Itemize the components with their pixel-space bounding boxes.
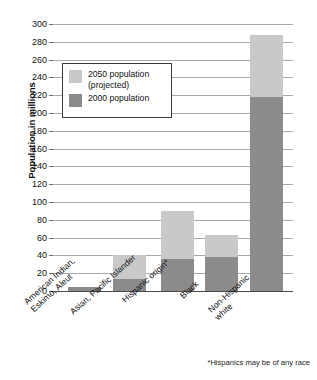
- legend-label-2050: 2050 population (projected): [88, 69, 149, 90]
- legend-item-2000: 2000 population: [69, 93, 166, 107]
- y-tick-label: 140: [32, 162, 47, 171]
- chart-legend: 2050 population (projected) 2000 populat…: [62, 63, 172, 118]
- chart-footnote: *Hispanics may be of any race: [207, 358, 310, 367]
- legend-item-2050: 2050 population (projected): [69, 69, 166, 90]
- y-tick-label: 220: [32, 91, 47, 100]
- y-tick-label: 240: [32, 73, 47, 82]
- y-tick-label: 260: [32, 55, 47, 64]
- y-tick-label: 100: [32, 198, 47, 207]
- bar-group: [161, 211, 194, 291]
- x-axis-labels: American Indian, Eskimo, AleutAsian, Pac…: [0, 291, 317, 361]
- y-tick-label: 120: [32, 180, 47, 189]
- y-tick-label: 300: [32, 20, 47, 29]
- bar-group: [250, 35, 283, 291]
- y-tick-label: 80: [37, 215, 47, 224]
- y-tick-label: 160: [32, 144, 47, 153]
- y-tick-label: 200: [32, 109, 47, 118]
- population-bar-chart: Population in millions 02040608010012014…: [0, 0, 317, 380]
- y-tick-label: 40: [37, 251, 47, 260]
- legend-swatch-2050-icon: [69, 70, 82, 83]
- bar-segment-2000: [250, 97, 283, 291]
- y-tick-label: 60: [37, 233, 47, 242]
- legend-label-2000: 2000 population: [88, 93, 149, 104]
- y-tick-label: 180: [32, 126, 47, 135]
- y-tick-label: 280: [32, 37, 47, 46]
- legend-swatch-2000-icon: [69, 94, 82, 107]
